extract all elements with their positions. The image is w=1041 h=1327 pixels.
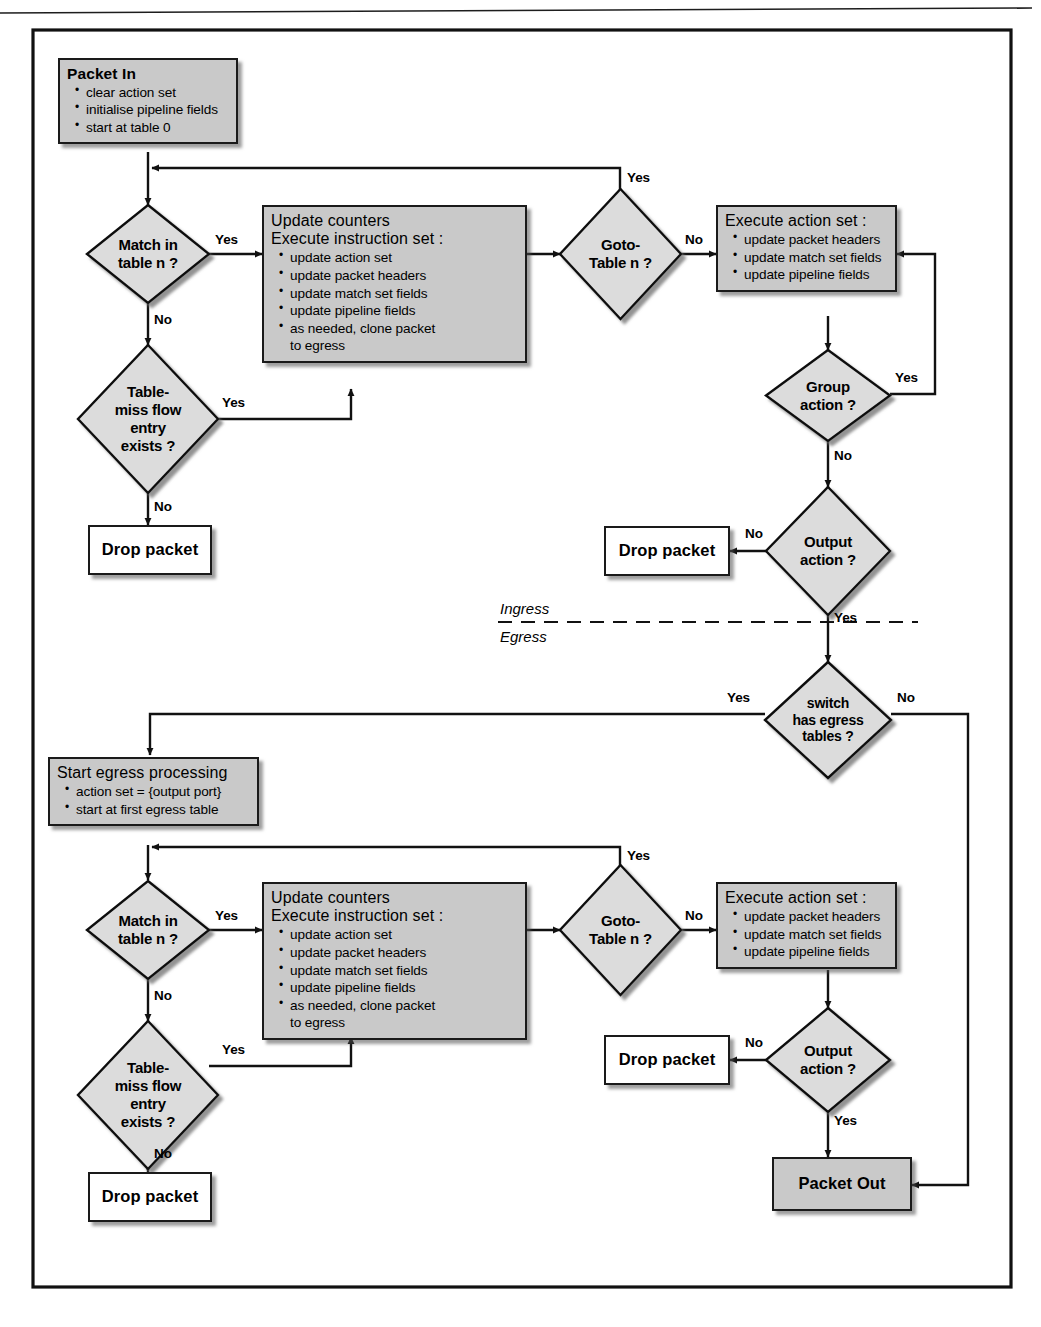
- edge-label-ingress-miss-no: No: [154, 499, 172, 514]
- drop-packet-label: Drop packet: [619, 1050, 715, 1069]
- list-item: update packet headers: [733, 908, 888, 926]
- decision-egress-output-action[interactable]: Output action ?: [766, 1008, 890, 1112]
- edge-label-egress-output-yes: Yes: [834, 1113, 857, 1128]
- list-item: update match set fields: [733, 249, 888, 267]
- list-item: update pipeline fields: [279, 302, 518, 320]
- drop-packet-label: Drop packet: [619, 541, 715, 560]
- node-egress-execute-action-set[interactable]: Execute action set : update packet heade…: [716, 882, 897, 969]
- execute-action-set-title: Execute action set :: [725, 212, 888, 230]
- execute-action-set-list: update packet headers update match set f…: [725, 231, 888, 284]
- edge-label-ingress-group-yes: Yes: [895, 370, 918, 385]
- list-item: action set = {output port}: [65, 783, 250, 801]
- node-egress-drop-packet-miss[interactable]: Drop packet: [88, 1172, 212, 1222]
- decision-ingress-table-miss[interactable]: Table- miss flow entry exists ?: [78, 345, 218, 493]
- edge-label-ingress-match-no: No: [154, 312, 172, 327]
- edge-label-egress-miss-yes: Yes: [222, 1042, 245, 1057]
- edge-label-egress-goto-yes: Yes: [627, 848, 650, 863]
- start-egress-list: action set = {output port} start at firs…: [57, 783, 250, 818]
- node-ingress-drop-packet-output[interactable]: Drop packet: [604, 526, 730, 576]
- packet-in-list: clear action set initialise pipeline fie…: [67, 84, 229, 137]
- node-start-egress-processing[interactable]: Start egress processing action set = {ou…: [48, 757, 259, 826]
- node-ingress-execute-action-set[interactable]: Execute action set : update packet heade…: [716, 205, 897, 292]
- decision-ingress-group-action[interactable]: Group action ?: [766, 350, 890, 441]
- list-item: update pipeline fields: [733, 943, 888, 961]
- list-item-continuation: to egress: [279, 1014, 518, 1032]
- decision-ingress-goto-table[interactable]: Goto- Table n ?: [560, 189, 681, 319]
- list-item: update packet headers: [279, 267, 518, 285]
- decision-ingress-output-action[interactable]: Output action ?: [766, 487, 890, 615]
- list-item: update match set fields: [279, 285, 518, 303]
- edge-label-egress-output-no: No: [745, 1035, 763, 1050]
- edge-label-ingress-output-no: No: [745, 526, 763, 541]
- edge-label-ingress-goto-no: No: [685, 232, 703, 247]
- edge-label-egress-miss-no: No: [154, 1146, 172, 1161]
- packet-out-label: Packet Out: [798, 1174, 885, 1193]
- node-ingress-drop-packet-miss[interactable]: Drop packet: [88, 525, 212, 575]
- update-counters-title-2: Execute instruction set :: [271, 907, 518, 925]
- update-counters-title-1: Update counters: [271, 212, 518, 230]
- execute-action-set-title: Execute action set :: [725, 889, 888, 907]
- list-item: update packet headers: [279, 944, 518, 962]
- drop-packet-label: Drop packet: [102, 1187, 198, 1206]
- update-counters-title-1: Update counters: [271, 889, 518, 907]
- decision-egress-goto-table[interactable]: Goto- Table n ?: [560, 865, 681, 995]
- list-item: initialise pipeline fields: [75, 101, 229, 119]
- decision-egress-match-in-table[interactable]: Match in table n ?: [87, 881, 209, 979]
- edge-label-ingress-output-yes: Yes: [834, 610, 857, 625]
- figure-canvas: Packet In clear action set initialise pi…: [0, 0, 1041, 1327]
- list-item: clear action set: [75, 84, 229, 102]
- decision-egress-table-miss[interactable]: Table- miss flow entry exists ?: [78, 1021, 218, 1169]
- edge-label-ingress-miss-yes: Yes: [222, 395, 245, 410]
- list-item: update pipeline fields: [733, 266, 888, 284]
- update-counters-title-2: Execute instruction set :: [271, 230, 518, 248]
- separator-label-ingress: Ingress: [500, 600, 549, 617]
- start-egress-title: Start egress processing: [57, 764, 250, 782]
- list-item: as needed, clone packet: [279, 997, 518, 1015]
- edge-label-egress-goto-no: No: [685, 908, 703, 923]
- edge-label-switch-egress-yes: Yes: [727, 690, 750, 705]
- execute-action-set-list: update packet headers update match set f…: [725, 908, 888, 961]
- list-item: update match set fields: [279, 962, 518, 980]
- list-item: update pipeline fields: [279, 979, 518, 997]
- node-egress-update-counters[interactable]: Update counters Execute instruction set …: [262, 882, 527, 1040]
- edge-label-egress-match-yes: Yes: [215, 908, 238, 923]
- decision-ingress-match-in-table[interactable]: Match in table n ?: [87, 205, 209, 303]
- packet-in-title: Packet In: [67, 65, 229, 83]
- edge-label-ingress-match-yes: Yes: [215, 232, 238, 247]
- drop-packet-label: Drop packet: [102, 540, 198, 559]
- edge-label-ingress-group-no: No: [834, 448, 852, 463]
- list-item: update action set: [279, 926, 518, 944]
- list-item-continuation: to egress: [279, 337, 518, 355]
- update-counters-list: update action set update packet headers …: [271, 249, 518, 354]
- node-packet-out[interactable]: Packet Out: [772, 1157, 912, 1211]
- edge-label-switch-egress-no: No: [897, 690, 915, 705]
- update-counters-list: update action set update packet headers …: [271, 926, 518, 1031]
- node-packet-in[interactable]: Packet In clear action set initialise pi…: [58, 58, 238, 144]
- node-ingress-update-counters[interactable]: Update counters Execute instruction set …: [262, 205, 527, 363]
- decision-switch-has-egress-tables[interactable]: switch has egress tables ?: [765, 662, 891, 778]
- list-item: as needed, clone packet: [279, 320, 518, 338]
- list-item: update packet headers: [733, 231, 888, 249]
- edge-label-egress-match-no: No: [154, 988, 172, 1003]
- separator-label-egress: Egress: [500, 628, 547, 645]
- node-egress-drop-packet-output[interactable]: Drop packet: [604, 1035, 730, 1085]
- list-item: start at first egress table: [65, 801, 250, 819]
- list-item: update action set: [279, 249, 518, 267]
- edge-label-ingress-goto-yes: Yes: [627, 170, 650, 185]
- list-item: update match set fields: [733, 926, 888, 944]
- list-item: start at table 0: [75, 119, 229, 137]
